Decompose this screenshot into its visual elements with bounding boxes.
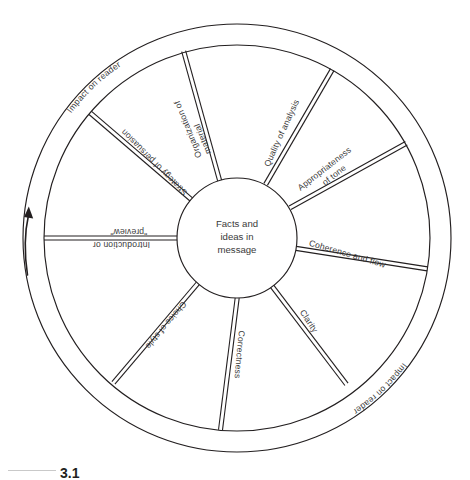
spoke-label-preview: "preview"	[110, 227, 147, 237]
rotation-arrow	[24, 207, 33, 276]
caption-rule	[8, 470, 56, 471]
spoke-label-introduction-or: Introduction or	[93, 240, 150, 250]
ring-label-impact-bottom: Impact on reader	[352, 361, 410, 416]
spoke-label-strategy-of-persuasion: Strategy of persuasion	[119, 127, 189, 197]
ring-label-impact-top: Impact on reader	[65, 59, 123, 114]
communication-wheel-figure: Facts and ideas in message Impact on rea…	[0, 0, 470, 480]
spoke-label-choice-of-style: Choice of style	[144, 300, 189, 352]
figure-caption-number: 3.1	[60, 466, 79, 480]
hub-label-line2: ideas in	[220, 231, 253, 242]
wheel-diagram: Facts and ideas in message Impact on rea…	[0, 0, 470, 480]
hub-label-line1: Facts and	[216, 218, 258, 229]
hub-label-line3: message	[218, 244, 257, 255]
spoke-label-quality-of-analysis: Quality of analysis	[262, 98, 301, 168]
